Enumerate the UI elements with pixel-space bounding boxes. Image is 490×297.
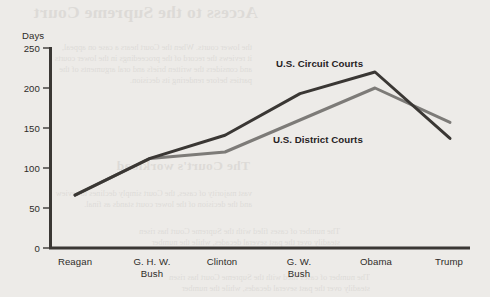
x-axis-tick-label-obama: Obama	[341, 256, 411, 268]
x-axis-tick-label-gw-bush: G. W. Bush	[264, 256, 334, 279]
x-tick-line: Reagan	[40, 256, 110, 268]
series-annotation-us-district-courts: U.S. District Courts	[273, 134, 363, 145]
line-chart: Days 250 200 150 100 50 0 U.S. Circuit C…	[0, 0, 490, 297]
y-axis-ticks	[43, 48, 50, 248]
x-tick-line: G. H. W.	[117, 256, 187, 268]
x-tick-line: Obama	[341, 256, 411, 268]
x-tick-line: Bush	[264, 268, 334, 280]
series-line-us-circuit-courts	[75, 72, 450, 195]
series-line-us-district-courts	[75, 88, 450, 195]
x-tick-line: Trump	[414, 256, 484, 268]
x-tick-line: G. W.	[264, 256, 334, 268]
chart-canvas	[0, 0, 490, 297]
x-tick-line: Bush	[117, 268, 187, 280]
x-axis-tick-label-reagan: Reagan	[40, 256, 110, 268]
x-axis-tick-label-trump: Trump	[414, 256, 484, 268]
x-axis-tick-label-ghw-bush: G. H. W. Bush	[117, 256, 187, 279]
x-axis-tick-label-clinton: Clinton	[187, 256, 257, 268]
series-annotation-us-circuit-courts: U.S. Circuit Courts	[276, 58, 363, 69]
x-tick-line: Clinton	[187, 256, 257, 268]
